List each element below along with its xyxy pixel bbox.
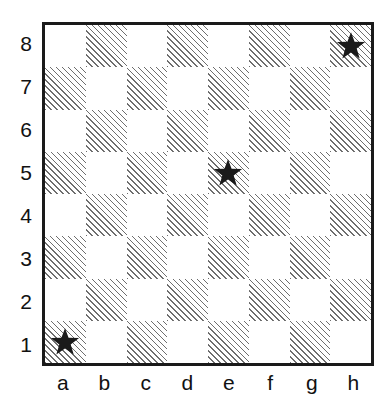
rank-label-2: 2	[14, 280, 38, 323]
file-label-row: abcdefgh	[42, 370, 374, 400]
square-a6[interactable]	[45, 110, 86, 152]
square-h3[interactable]	[330, 236, 371, 278]
square-h1[interactable]	[330, 321, 371, 363]
file-label-c: c	[125, 370, 167, 400]
square-h6[interactable]	[330, 110, 371, 152]
square-c6[interactable]	[127, 110, 168, 152]
square-d4[interactable]	[167, 194, 208, 236]
square-c7[interactable]	[127, 67, 168, 109]
square-a4[interactable]	[45, 194, 86, 236]
square-g5[interactable]	[290, 152, 331, 194]
rank-label-8: 8	[14, 22, 38, 65]
square-e2[interactable]	[208, 279, 249, 321]
square-c8[interactable]	[127, 25, 168, 67]
rank-label-6: 6	[14, 108, 38, 151]
square-g6[interactable]	[290, 110, 331, 152]
file-label-a: a	[42, 370, 84, 400]
square-a2[interactable]	[45, 279, 86, 321]
chessboard-diagram: 87654321 abcdefgh	[0, 0, 392, 412]
rank-label-4: 4	[14, 194, 38, 237]
square-e6[interactable]	[208, 110, 249, 152]
star-icon	[50, 327, 80, 357]
square-d1[interactable]	[167, 321, 208, 363]
square-a7[interactable]	[45, 67, 86, 109]
file-label-h: h	[333, 370, 375, 400]
square-d7[interactable]	[167, 67, 208, 109]
square-e7[interactable]	[208, 67, 249, 109]
square-f2[interactable]	[249, 279, 290, 321]
file-label-b: b	[84, 370, 126, 400]
square-h4[interactable]	[330, 194, 371, 236]
square-b4[interactable]	[86, 194, 127, 236]
square-e3[interactable]	[208, 236, 249, 278]
square-f5[interactable]	[249, 152, 290, 194]
file-label-g: g	[291, 370, 333, 400]
square-h2[interactable]	[330, 279, 371, 321]
board-grid	[45, 25, 371, 363]
square-d5[interactable]	[167, 152, 208, 194]
square-f7[interactable]	[249, 67, 290, 109]
square-c1[interactable]	[127, 321, 168, 363]
square-f6[interactable]	[249, 110, 290, 152]
square-d6[interactable]	[167, 110, 208, 152]
square-b3[interactable]	[86, 236, 127, 278]
file-label-f: f	[250, 370, 292, 400]
star-icon	[213, 158, 243, 188]
rank-label-column: 87654321	[14, 22, 38, 366]
square-h5[interactable]	[330, 152, 371, 194]
board-frame	[42, 22, 374, 366]
square-h8[interactable]	[330, 25, 371, 67]
square-b1[interactable]	[86, 321, 127, 363]
square-c2[interactable]	[127, 279, 168, 321]
square-f1[interactable]	[249, 321, 290, 363]
square-g3[interactable]	[290, 236, 331, 278]
square-e5[interactable]	[208, 152, 249, 194]
square-d8[interactable]	[167, 25, 208, 67]
square-d3[interactable]	[167, 236, 208, 278]
square-g8[interactable]	[290, 25, 331, 67]
square-g7[interactable]	[290, 67, 331, 109]
square-d2[interactable]	[167, 279, 208, 321]
square-b8[interactable]	[86, 25, 127, 67]
square-c4[interactable]	[127, 194, 168, 236]
square-g4[interactable]	[290, 194, 331, 236]
rank-label-1: 1	[14, 323, 38, 366]
square-b6[interactable]	[86, 110, 127, 152]
rank-label-5: 5	[14, 151, 38, 194]
square-g1[interactable]	[290, 321, 331, 363]
rank-label-3: 3	[14, 237, 38, 280]
square-b7[interactable]	[86, 67, 127, 109]
square-c3[interactable]	[127, 236, 168, 278]
file-label-d: d	[167, 370, 209, 400]
square-g2[interactable]	[290, 279, 331, 321]
rank-label-7: 7	[14, 65, 38, 108]
square-f4[interactable]	[249, 194, 290, 236]
square-c5[interactable]	[127, 152, 168, 194]
square-e1[interactable]	[208, 321, 249, 363]
square-e4[interactable]	[208, 194, 249, 236]
file-label-e: e	[208, 370, 250, 400]
square-a1[interactable]	[45, 321, 86, 363]
square-a5[interactable]	[45, 152, 86, 194]
square-f8[interactable]	[249, 25, 290, 67]
square-e8[interactable]	[208, 25, 249, 67]
square-f3[interactable]	[249, 236, 290, 278]
square-a3[interactable]	[45, 236, 86, 278]
star-icon	[336, 31, 366, 61]
square-h7[interactable]	[330, 67, 371, 109]
square-b2[interactable]	[86, 279, 127, 321]
square-a8[interactable]	[45, 25, 86, 67]
square-b5[interactable]	[86, 152, 127, 194]
